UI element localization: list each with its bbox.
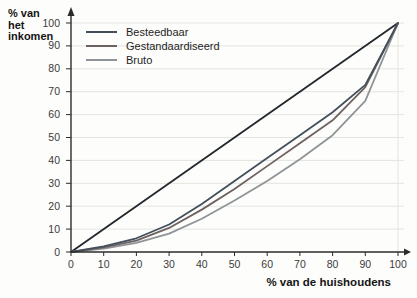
svg-text:30: 30 bbox=[48, 177, 60, 189]
svg-text:50: 50 bbox=[229, 258, 241, 270]
svg-text:90: 90 bbox=[359, 258, 371, 270]
y-axis-title: % van het inkomen bbox=[8, 8, 68, 43]
svg-text:30: 30 bbox=[163, 258, 175, 270]
svg-text:10: 10 bbox=[48, 223, 60, 235]
y-axis-title-line3: inkomen bbox=[8, 31, 68, 43]
svg-text:70: 70 bbox=[294, 258, 306, 270]
legend-item-gestandaardiseerd: Gestandaardiseerd bbox=[86, 40, 220, 52]
svg-text:10: 10 bbox=[98, 258, 110, 270]
svg-text:60: 60 bbox=[48, 108, 60, 120]
svg-text:0: 0 bbox=[54, 246, 60, 258]
legend-label: Besteedbaar bbox=[126, 26, 188, 38]
svg-text:80: 80 bbox=[327, 258, 339, 270]
svg-text:100: 100 bbox=[389, 258, 407, 270]
svg-text:70: 70 bbox=[48, 85, 60, 97]
svg-text:80: 80 bbox=[48, 62, 60, 74]
chart-legend: Besteedbaar Gestandaardiseerd Bruto bbox=[86, 26, 220, 66]
svg-text:20: 20 bbox=[131, 258, 143, 270]
svg-text:20: 20 bbox=[48, 200, 60, 212]
legend-item-besteedbaar: Besteedbaar bbox=[86, 26, 220, 38]
svg-text:50: 50 bbox=[48, 131, 60, 143]
legend-line-swatch bbox=[86, 59, 117, 61]
legend-line-swatch bbox=[86, 31, 117, 33]
legend-label: Gestandaardiseerd bbox=[126, 40, 220, 52]
legend-line-swatch bbox=[86, 45, 117, 47]
svg-text:0: 0 bbox=[68, 258, 74, 270]
legend-item-bruto: Bruto bbox=[86, 54, 220, 66]
x-axis-title: % van de huishoudens bbox=[266, 276, 391, 288]
legend-label: Bruto bbox=[126, 54, 152, 66]
svg-text:60: 60 bbox=[261, 258, 273, 270]
svg-text:40: 40 bbox=[48, 154, 60, 166]
y-axis-title-line1: % van bbox=[8, 8, 68, 20]
svg-text:40: 40 bbox=[196, 258, 208, 270]
lorenz-figure: 0102030405060708090100010203040506070809… bbox=[0, 0, 417, 298]
